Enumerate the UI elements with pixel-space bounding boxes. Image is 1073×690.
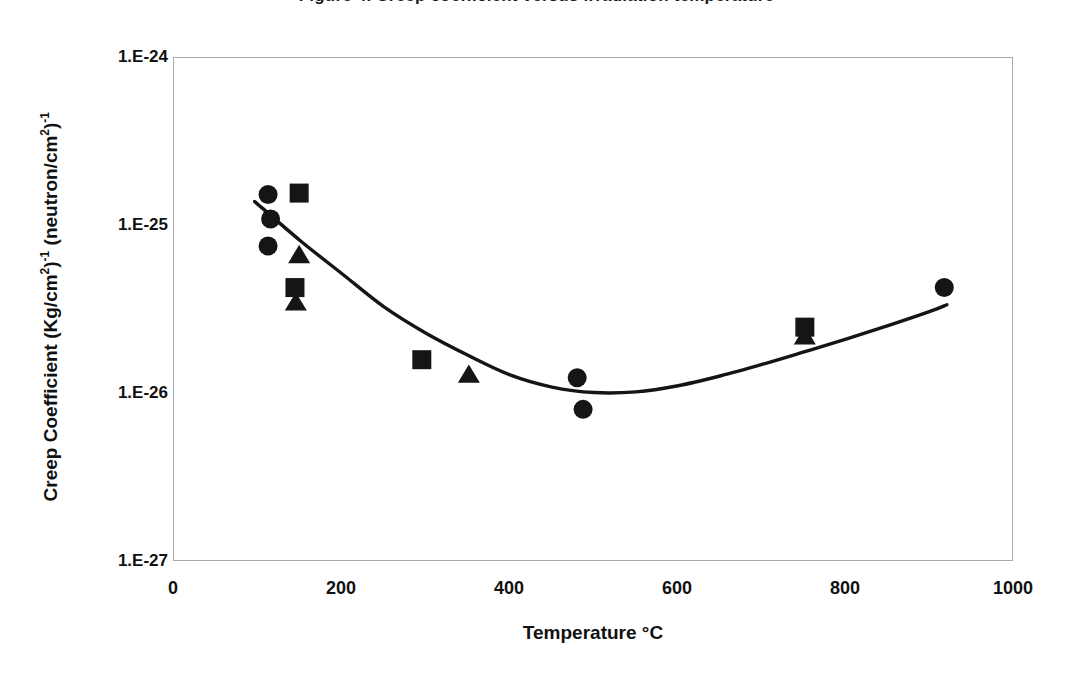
data-point-circle: [568, 368, 587, 387]
x-axis-tick-0: 0: [128, 578, 218, 599]
y-axis-tick-1.E-26: 1.E-26: [68, 383, 168, 403]
x-axis-tick-800: 800: [800, 578, 890, 599]
square-series: [285, 184, 814, 370]
y-axis-title-seg4: ): [40, 123, 61, 129]
y-axis-title-sup2: -1: [38, 251, 52, 262]
plot-svg: [174, 58, 1012, 560]
fit-curve: [255, 201, 947, 393]
y-axis-title-sup4: -1: [38, 112, 52, 123]
y-axis-tick-1.E-24: 1.E-24: [68, 47, 168, 67]
x-axis-tick-1000: 1000: [968, 578, 1058, 599]
y-axis-title-sup3: 2: [38, 129, 52, 136]
circle-series: [259, 185, 954, 419]
x-axis-title: Temperature °C: [173, 622, 1013, 644]
x-axis-tick-600: 600: [632, 578, 722, 599]
y-axis-title-seg2: ): [40, 261, 61, 267]
data-point-triangle: [458, 364, 480, 382]
plot-area: [173, 57, 1013, 561]
data-point-square: [412, 350, 431, 369]
chart-page: Figure 4. Creep coefficient versus irrad…: [0, 0, 1073, 690]
x-axis-tick-400: 400: [464, 578, 554, 599]
x-axis-tick-200: 200: [296, 578, 386, 599]
y-axis-tick-1.E-27: 1.E-27: [68, 551, 168, 571]
y-axis-title: Creep Coefficient (Kg/cm2)-1 (neutron/cm…: [38, 52, 61, 562]
data-point-circle: [935, 278, 954, 297]
triangle-series: [285, 245, 816, 383]
y-axis-title-seg1: Creep Coefficient (Kg/cm: [40, 274, 61, 501]
data-point-circle: [259, 237, 278, 256]
y-axis-tick-1.E-25: 1.E-25: [68, 215, 168, 235]
data-point-circle: [574, 400, 593, 419]
y-axis-title-sup1: 2: [38, 268, 52, 275]
data-point-circle: [259, 185, 278, 204]
data-point-square: [290, 184, 309, 203]
y-axis-title-seg3: (neutron/cm: [40, 136, 61, 251]
